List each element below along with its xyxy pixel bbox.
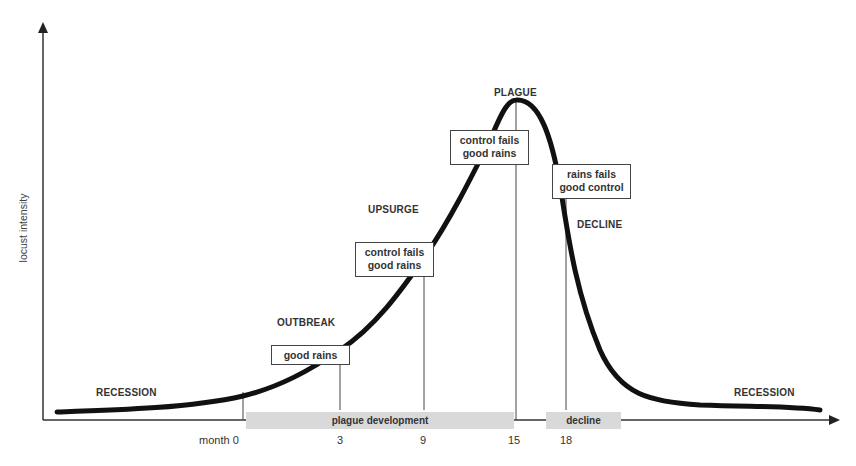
box-decline-line2: good control	[557, 181, 626, 194]
band-decline: decline	[546, 412, 621, 429]
x-axis-arrow-icon	[829, 415, 840, 425]
y-axis-label: locust intensity	[17, 193, 29, 263]
box-outbreak-line1: good rains	[276, 349, 345, 361]
box-outbreak-condition: good rains	[271, 345, 350, 365]
locust-cycle-diagram: locust intensity plague development decl…	[0, 0, 856, 466]
box-upsurge-line1: control fails	[360, 246, 429, 259]
tick-15: 15	[508, 434, 520, 446]
y-axis-arrow-icon	[38, 22, 48, 33]
tick-9: 9	[420, 434, 426, 446]
phase-recession-left: RECESSION	[96, 387, 157, 398]
box-plague-line1: control fails	[455, 134, 524, 147]
phase-outbreak: OUTBREAK	[277, 317, 335, 328]
phase-upsurge: UPSURGE	[368, 204, 419, 215]
box-upsurge-condition: control fails good rains	[355, 242, 434, 277]
band-plague-development: plague development	[246, 412, 514, 429]
box-decline-line1: rains fails	[557, 168, 626, 181]
box-decline-condition: rains fails good control	[552, 164, 631, 199]
phase-plague: PLAGUE	[494, 87, 537, 98]
tick-18: 18	[560, 434, 572, 446]
box-plague-line2: good rains	[455, 147, 524, 160]
tick-month-0: month 0	[199, 434, 239, 446]
box-upsurge-line2: good rains	[360, 259, 429, 272]
phase-decline: DECLINE	[577, 219, 622, 230]
tick-3: 3	[337, 434, 343, 446]
phase-recession-right: RECESSION	[734, 387, 795, 398]
box-plague-condition: control fails good rains	[450, 130, 529, 165]
intensity-curve	[57, 100, 820, 412]
